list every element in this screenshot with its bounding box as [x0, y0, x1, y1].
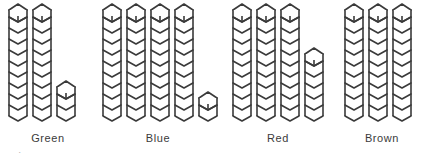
block-column-glyph	[256, 3, 276, 123]
block-column-blue-1	[102, 3, 122, 123]
group-label-red: Red	[228, 132, 328, 144]
block-column-brown-3	[392, 3, 412, 123]
block-column-glyph	[280, 3, 300, 123]
block-column-glyph	[150, 3, 170, 123]
block-column-glyph	[368, 3, 388, 123]
block-column-glyph	[198, 91, 218, 123]
group-label-brown: Brown	[340, 132, 424, 144]
block-column-glyph	[56, 80, 76, 123]
block-column-glyph	[102, 3, 122, 123]
pictograph-chart: Green Blue Red Brown · ▬	[0, 0, 428, 153]
block-column-glyph	[8, 3, 28, 123]
block-column-glyph	[126, 3, 146, 123]
group-label-green: Green	[4, 132, 92, 144]
block-column-glyph	[344, 3, 364, 123]
block-column-red-4	[304, 47, 324, 123]
group-blue: Blue	[98, 0, 218, 153]
block-column-red-1	[232, 3, 252, 123]
group-label-blue: Blue	[98, 132, 218, 144]
block-column-glyph	[232, 3, 252, 123]
block-column-green-1	[8, 3, 28, 123]
block-column-green-3	[56, 80, 76, 123]
block-column-glyph	[304, 47, 324, 123]
block-column-blue-3	[150, 3, 170, 123]
clipped-footer-text: · ▬	[18, 147, 36, 153]
group-red: Red	[228, 0, 328, 153]
block-column-blue-2	[126, 3, 146, 123]
block-column-brown-1	[344, 3, 364, 123]
block-column-glyph	[392, 3, 412, 123]
block-column-blue-4	[174, 3, 194, 123]
block-column-glyph	[32, 3, 52, 123]
block-column-glyph	[174, 3, 194, 123]
block-column-blue-5	[198, 91, 218, 123]
group-green: Green	[4, 0, 92, 153]
group-brown: Brown	[340, 0, 424, 153]
block-column-green-2	[32, 3, 52, 123]
block-column-red-2	[256, 3, 276, 123]
block-column-brown-2	[368, 3, 388, 123]
block-column-red-3	[280, 3, 300, 123]
